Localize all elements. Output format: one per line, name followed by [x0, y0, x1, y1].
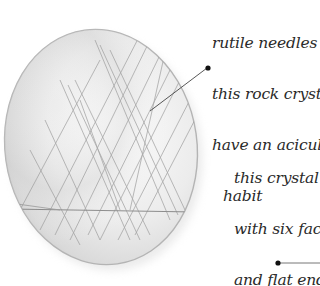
annotation-line: with six faces: [234, 221, 320, 238]
annotation-line: this rock crystal: [212, 86, 320, 103]
crystal: [0, 17, 212, 277]
annotation-line: this crystal: [234, 170, 320, 187]
annotation-prismatic-types: this crystal with six faces and flat end…: [234, 136, 320, 286]
annotation-line: rutile needles in: [212, 35, 320, 52]
annotation-line: and flat ends: [234, 272, 320, 286]
